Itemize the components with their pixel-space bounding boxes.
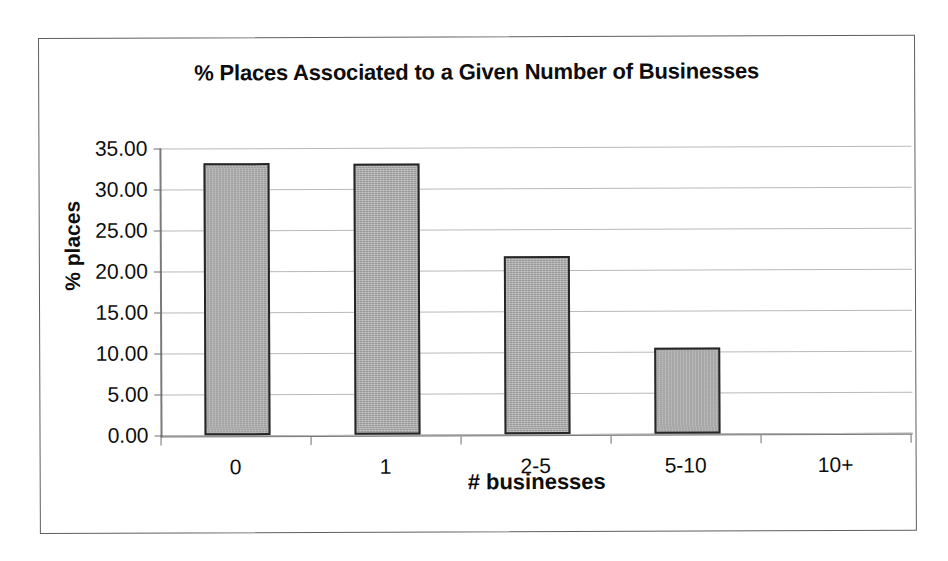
bar-slot xyxy=(461,147,612,435)
y-axis-tick xyxy=(155,436,163,437)
bar[interactable] xyxy=(353,164,420,435)
x-axis-tick xyxy=(611,436,612,444)
y-axis-tick xyxy=(154,395,162,396)
y-axis-tick xyxy=(154,354,162,355)
x-axis-title: # businesses xyxy=(161,468,913,497)
y-axis-tick-label: 30.00 xyxy=(95,178,148,202)
x-axis-tick xyxy=(311,437,312,445)
chart-title: % Places Associated to a Given Number of… xyxy=(39,58,914,87)
bar-slot xyxy=(761,146,912,434)
y-axis-tick xyxy=(154,313,162,314)
y-axis-tick-label: 0.00 xyxy=(108,424,149,448)
y-axis-tick xyxy=(154,190,162,191)
x-axis-tick xyxy=(461,436,462,444)
bar[interactable] xyxy=(203,163,270,435)
plot-area xyxy=(159,146,912,438)
y-axis-tick-labels: 35.0030.0025.0020.0015.0010.005.000.00 xyxy=(39,149,148,438)
bar-slot xyxy=(311,147,462,435)
x-axis-tick xyxy=(161,438,162,446)
y-axis-tick xyxy=(153,149,161,150)
y-axis-tick-label: 5.00 xyxy=(107,383,148,407)
bar-slot xyxy=(161,148,312,436)
y-axis-tick xyxy=(154,231,162,232)
bar[interactable] xyxy=(654,347,720,433)
bar[interactable] xyxy=(504,256,571,434)
y-axis-tick-label: 15.00 xyxy=(95,301,148,325)
x-axis-tick xyxy=(761,435,762,443)
y-axis-tick-label: 35.00 xyxy=(95,137,148,161)
y-axis-tick-label: 10.00 xyxy=(96,342,149,366)
y-axis-tick-label: 25.00 xyxy=(95,219,148,243)
y-axis-tick-label: 20.00 xyxy=(95,260,148,284)
chart-frame: % Places Associated to a Given Number of… xyxy=(38,35,917,534)
y-axis-tick xyxy=(154,272,162,273)
x-axis-tick xyxy=(911,435,912,443)
bar-slot xyxy=(611,146,762,434)
